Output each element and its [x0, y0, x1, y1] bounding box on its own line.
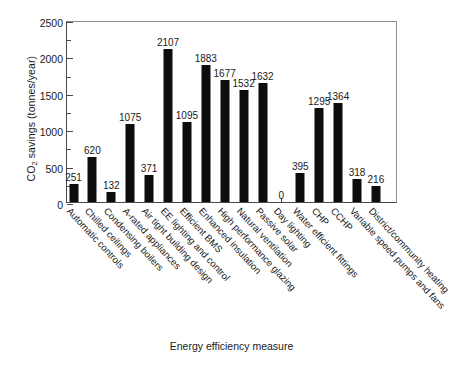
- bar: 318: [353, 179, 362, 202]
- bar-value-label: 1075: [119, 113, 141, 123]
- y-axis-tick: 2000: [67, 58, 73, 59]
- y-axis-tick: 1500: [67, 95, 73, 96]
- bar-value-label: 251: [65, 173, 82, 183]
- bar: 2107: [164, 49, 173, 202]
- bar-value-label: 620: [84, 146, 101, 156]
- bar: 1364: [334, 103, 343, 202]
- bar-value-label: 1632: [251, 72, 273, 82]
- y-axis-title-suffix: savings (tonnes/year): [25, 56, 37, 162]
- y-axis-minor-tick: [67, 113, 71, 114]
- y-axis-tick-label: 2000: [40, 53, 63, 65]
- bar-value-label: 1095: [176, 111, 198, 121]
- y-axis-minor-tick: [67, 149, 71, 150]
- bar: 1295: [315, 108, 324, 202]
- y-axis-title-prefix: CO: [25, 166, 37, 182]
- bar: 1532: [239, 90, 248, 202]
- bar: 1632: [258, 83, 267, 202]
- y-axis-minor-tick: [67, 77, 71, 78]
- y-axis-title-subscript: 2: [30, 161, 39, 165]
- y-axis-tick-label: 1000: [40, 126, 63, 138]
- y-axis-minor-tick: [67, 40, 71, 41]
- bar-value-label: 132: [103, 181, 120, 191]
- bar: 395: [296, 173, 305, 202]
- bar-value-label: 371: [141, 164, 158, 174]
- bar: 620: [88, 157, 97, 202]
- y-axis-tick-label: 1500: [40, 90, 63, 102]
- y-axis-tick-label: 0: [57, 199, 63, 211]
- bar-value-label: 1364: [327, 92, 349, 102]
- bar: 216: [371, 186, 380, 202]
- x-axis-category-label: Variable speed pumps and fans: [348, 206, 447, 311]
- y-axis-tick: 1000: [67, 131, 73, 132]
- y-axis-tick: 2500: [67, 22, 73, 23]
- x-axis-category-label: District/community heating: [367, 206, 451, 295]
- bar-value-label: 0: [279, 191, 285, 201]
- bar: 371: [145, 175, 154, 202]
- bar: 1075: [126, 124, 135, 202]
- bar: 1095: [182, 122, 191, 202]
- y-axis-tick-label: 2500: [40, 17, 63, 29]
- bar-value-label: 395: [292, 162, 309, 172]
- y-axis-tick-label: 500: [45, 163, 63, 175]
- plot-area: 05001000150020002500251Automatic control…: [66, 21, 397, 203]
- y-axis-title: CO2 savings (tonnes/year): [25, 24, 38, 214]
- y-axis-tick: 500: [67, 168, 73, 169]
- bar-value-label: 2107: [157, 38, 179, 48]
- bar-value-label: 1677: [214, 69, 236, 79]
- bar: 251: [69, 184, 78, 202]
- bar: 1677: [220, 80, 229, 202]
- bar-value-label: 216: [368, 175, 385, 185]
- bar: 1883: [201, 65, 210, 202]
- bar-value-label: 1883: [195, 54, 217, 64]
- bar: 132: [107, 192, 116, 202]
- bar-value-label: 318: [349, 168, 366, 178]
- x-axis-title: Energy efficiency measure: [66, 340, 397, 352]
